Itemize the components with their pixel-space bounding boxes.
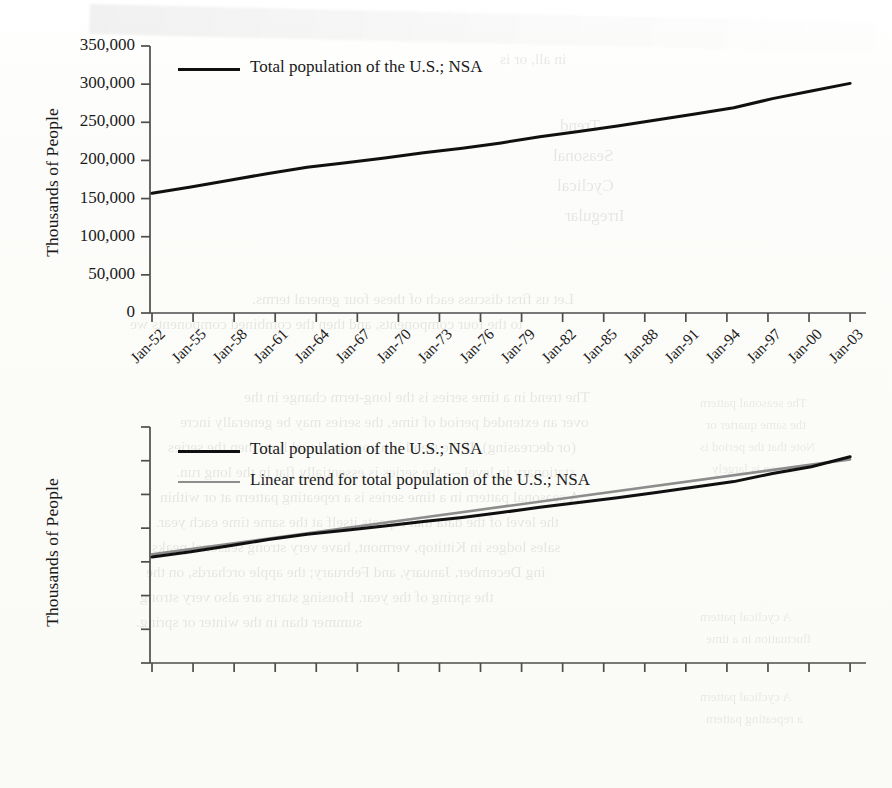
chart-total-population: Thousands of People 350,000300,000250,00…: [0, 0, 892, 394]
y-tick-label: 0: [25, 302, 135, 322]
legend-label-total-population: Total population of the U.S.; NSA: [250, 439, 483, 459]
y-axis-label: Thousands of People: [42, 453, 63, 653]
y-tick-label: 200,000: [25, 149, 135, 169]
legend-label-total-population: Total population of the U.S.; NSA: [250, 57, 483, 77]
legend-swatch-total-population: [178, 450, 240, 453]
y-axis-ticks-top: [141, 46, 150, 313]
legend-swatch-linear-trend: [178, 481, 240, 483]
chart-total-population-with-trend: Thousands of People 350,000300,000250,00…: [0, 394, 892, 788]
axes-top: [150, 46, 866, 313]
y-tick-label: 150,000: [25, 188, 135, 208]
x-axis-ticks-top: [152, 313, 850, 322]
y-tick-label: 350,000: [25, 35, 135, 55]
y-tick-label: 300,000: [25, 73, 135, 93]
y-axis-ticks-bottom: [141, 427, 150, 663]
y-tick-label: 250,000: [25, 111, 135, 131]
series-line-total-population: [152, 83, 850, 193]
y-tick-label: 100,000: [25, 226, 135, 246]
legend-label-linear-trend: Linear trend for total population of the…: [250, 470, 590, 490]
y-tick-label: 50,000: [25, 264, 135, 284]
axes-bottom: [150, 427, 866, 663]
legend-swatch-total-population: [178, 68, 240, 71]
x-axis-ticks-bottom: [152, 663, 850, 672]
scanned-page: in all, or is Trend Seasonal Cyclical Ir…: [0, 0, 892, 788]
